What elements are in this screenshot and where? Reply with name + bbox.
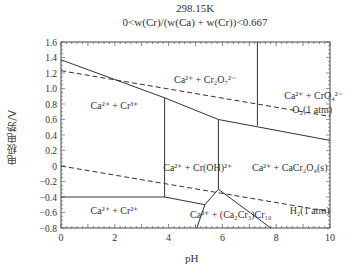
region-label: Ca²⁺ + Cr(OH)²⁺ [163,162,232,174]
x-tick-label: 8 [274,232,279,243]
x-tick-label: 6 [220,232,225,243]
x-tick-label: 10 [325,232,335,243]
y-tick-label: 0.6 [45,115,57,125]
y-tick-label: 1.0 [45,84,57,94]
y-tick-label: 1.2 [45,69,57,79]
h2-annotation: H₂(1 atm) [290,205,330,217]
x-tick-label: 2 [112,232,117,243]
y-tick-label: −0.2 [40,177,57,187]
region-label: Ca²⁺ + CrO₄²⁻ [284,90,342,101]
y-tick-label: 0.2 [45,146,57,156]
pourbaix-diagram: 02468101.61.41.21.00.80.60.40.20−0.2−0.4… [0,0,349,273]
y-tick-label: 0 [52,162,57,172]
phase-boundary-line [61,189,218,204]
plot-frame [61,42,330,228]
region-label: Ca²⁺ + Cr₂O₇²⁻ [174,74,236,85]
y-tick-label: 1.4 [45,53,57,63]
y-tick-label: 0.8 [45,100,57,110]
x-tick-label: 0 [59,232,64,243]
y-tick-label: −0.4 [40,193,57,203]
region-label: Ca²⁺ + (Ca₂Cr₃)Cr₁₀ [190,209,272,221]
y-tick-label: 0.4 [45,131,57,141]
x-tick-label: 4 [166,232,171,243]
y-tick-label: −0.6 [40,208,57,218]
region-label: Ca²⁺ + CaCr₂O₄(s) [252,162,328,174]
y-tick-label: 1.6 [45,38,57,48]
y-tick-label: −0.8 [40,224,57,234]
region-label: Ca²⁺ + Cr²⁺ [91,205,139,216]
o2-annotation: O₂(1 atm) [292,104,332,116]
region-label: Ca²⁺ + Cr³⁺ [91,100,139,111]
